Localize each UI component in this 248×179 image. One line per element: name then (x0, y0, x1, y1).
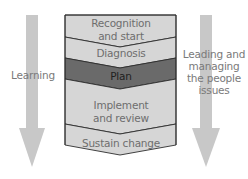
leading-people-label: Leading and managing the people issues (181, 48, 247, 96)
learning-label: Learning (4, 69, 62, 81)
stage-label-diagnosis: Diagnosis (65, 47, 177, 60)
stage-label-recognition: Recognition and start (84, 17, 158, 42)
stage-label-plan: Plan (65, 70, 177, 83)
stage-label-implement: Implement and review (86, 99, 156, 124)
stage-label-sustain: Sustain change (65, 137, 177, 150)
learning-arrow (19, 15, 45, 167)
